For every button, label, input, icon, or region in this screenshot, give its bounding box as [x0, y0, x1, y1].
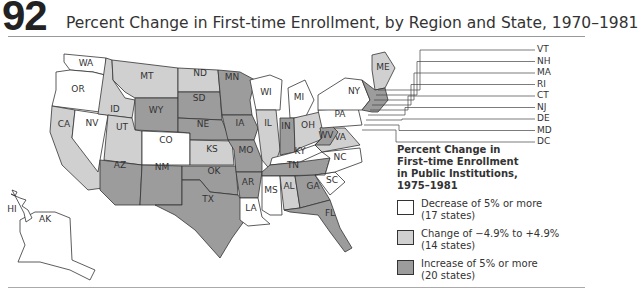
callout-leader-nj [368, 108, 535, 116]
state-label-nd: ND [193, 68, 207, 78]
state-ms [262, 176, 282, 215]
legend-item-change: Change of −4.9% to +4.9%(14 states) [397, 228, 582, 252]
callout-label-nj: NJ [537, 102, 546, 113]
callout-label-ma: MA [537, 67, 551, 78]
state-label-ca: CA [58, 119, 71, 129]
callout-leader-de [366, 119, 535, 120]
state-label-co: CO [159, 135, 172, 145]
state-label-nm: NM [155, 162, 170, 172]
state-label-sc: SC [326, 175, 338, 185]
callout-label-ct: CT [537, 90, 549, 101]
state-ak [18, 212, 95, 280]
figure-number: 92 [2, 0, 47, 40]
figure-title: Percent Change in First-time Enrollment,… [66, 14, 638, 32]
state-label-la: LA [245, 203, 257, 213]
state-label-id: ID [110, 104, 120, 114]
state-label-ny: NY [348, 86, 361, 96]
legend-swatch-decrease [397, 200, 414, 215]
state-label-wy: WY [149, 105, 164, 115]
state-label-ks: KS [206, 144, 218, 154]
legend-swatch-change [397, 230, 414, 245]
state-label-mo: MO [239, 145, 254, 155]
callout-label-nh: NH [537, 56, 551, 67]
state-label-ne: NE [197, 119, 210, 129]
state-label-hi: HI [7, 204, 16, 214]
state-label-or: OR [71, 84, 84, 94]
legend-swatch-increase [397, 260, 414, 275]
state-label-ut: UT [116, 122, 129, 132]
state-label-mn: MN [225, 72, 240, 82]
callout-label-de: DE [537, 113, 550, 124]
state-label-ia: IA [236, 118, 246, 128]
state-label-mt: MT [140, 71, 154, 81]
state-label-mi: MI [294, 92, 304, 102]
state-label-ok: OK [208, 166, 222, 176]
legend-title: Percent Change in First–time Enrollment … [397, 144, 582, 192]
state-label-wa: WA [79, 58, 94, 68]
state-label-tx: TX [201, 194, 214, 204]
state-wy [135, 98, 178, 132]
state-label-wi: WI [260, 87, 272, 97]
callout-leader-ct [370, 96, 535, 110]
legend: Percent Change in First–time Enrollment … [397, 144, 582, 282]
callout-label-vt: VT [537, 44, 549, 55]
top-divider [8, 36, 585, 37]
state-label-pa: PA [334, 109, 346, 119]
callout-leader-dc [362, 130, 535, 142]
callout-label-ri: RI [537, 79, 546, 90]
state-label-ak: AK [39, 214, 52, 224]
callout-label-md: MD [537, 125, 552, 136]
state-label-nv: NV [86, 118, 100, 128]
state-ny [318, 78, 370, 110]
state-label-ga: GA [306, 181, 320, 191]
state-label-il: IL [264, 118, 272, 128]
state-label-az: AZ [114, 160, 126, 170]
state-label-oh: OH [301, 120, 315, 130]
state-label-sd: SD [193, 93, 206, 103]
state-label-tn: TN [286, 160, 299, 170]
state-label-in: IN [281, 121, 290, 131]
state-label-wv: WV [318, 130, 334, 140]
state-label-al: AL [283, 181, 294, 191]
legend-item-decrease: Decrease of 5% or more(17 states) [397, 198, 582, 222]
state-label-me: ME [376, 62, 390, 72]
state-label-fl: FL [325, 208, 335, 218]
state-label-nc: NC [333, 152, 346, 162]
state-label-ky: KY [294, 146, 306, 156]
state-label-ms: MS [264, 185, 278, 195]
callout-leader-vt [378, 50, 535, 90]
bottom-divider [8, 287, 585, 288]
legend-item-increase: Increase of 5% or more(20 states) [397, 258, 582, 282]
state-label-ar: AR [242, 177, 254, 187]
